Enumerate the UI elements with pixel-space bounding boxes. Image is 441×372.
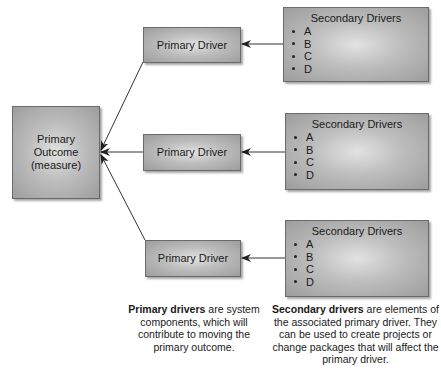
item-label: A [304,25,311,38]
bullet-icon [294,136,297,139]
secondary-driver-box-3: Secondary Drivers A B C D [285,220,429,297]
item-label: B [304,38,311,51]
list-item: C [292,50,312,63]
primary-driver-box-3: Primary Driver [145,240,241,277]
primary-driver-label: Primary Driver [158,252,228,265]
list-item: C [294,156,314,169]
bullet-icon [294,268,297,271]
list-item: A [292,25,312,38]
secondary-driver-title: Secondary Drivers [286,225,428,237]
secondary-driver-box-2: Secondary Drivers A B C D [285,113,429,190]
secondary-drivers-caption: Secondary drivers are elements of the as… [270,303,441,366]
bullet-icon [294,173,297,176]
arrow-pd3-to-outcome [101,155,145,240]
list-item: B [292,38,312,51]
item-label: A [306,238,313,251]
primary-driver-label: Primary Driver [157,39,227,52]
secondary-driver-list: A B C D [294,238,314,288]
list-item: D [292,63,312,76]
bullet-icon [294,148,297,151]
bullet-icon [294,243,297,246]
list-item: B [294,144,314,157]
item-label: C [306,156,314,169]
item-label: C [304,50,312,63]
outcome-line1: Primary [31,133,81,146]
item-label: A [306,131,313,144]
item-label: D [306,169,314,182]
primary-driver-label: Primary Driver [157,146,227,159]
list-item: D [294,276,314,289]
bullet-icon [294,255,297,258]
bullet-icon [292,67,295,70]
bullet-icon [292,55,295,58]
item-label: B [306,144,313,157]
outcome-line2: Outcome [31,146,81,159]
secondary-driver-list: A B C D [292,25,312,75]
bullet-icon [294,161,297,164]
item-label: B [306,251,313,264]
caption-bold: Secondary drivers [272,303,364,315]
list-item: B [294,251,314,264]
item-label: D [306,276,314,289]
secondary-driver-title: Secondary Drivers [284,12,428,24]
primary-drivers-caption: Primary drivers are system components, w… [124,303,264,353]
caption-bold: Primary drivers [128,303,205,315]
primary-driver-box-1: Primary Driver [143,27,241,63]
list-item: A [294,131,314,144]
bullet-icon [292,42,295,45]
primary-outcome-box: Primary Outcome (measure) [12,106,100,199]
outcome-line3: (measure) [31,159,81,172]
list-item: C [294,263,314,276]
primary-driver-box-2: Primary Driver [143,134,241,171]
bullet-icon [294,280,297,283]
item-label: D [304,63,312,76]
list-item: D [294,169,314,182]
bullet-icon [292,30,295,33]
arrow-pd1-to-outcome [101,62,143,150]
secondary-driver-title: Secondary Drivers [286,118,428,130]
list-item: A [294,238,314,251]
item-label: C [306,263,314,276]
secondary-driver-list: A B C D [294,131,314,181]
secondary-driver-box-1: Secondary Drivers A B C D [283,7,429,82]
